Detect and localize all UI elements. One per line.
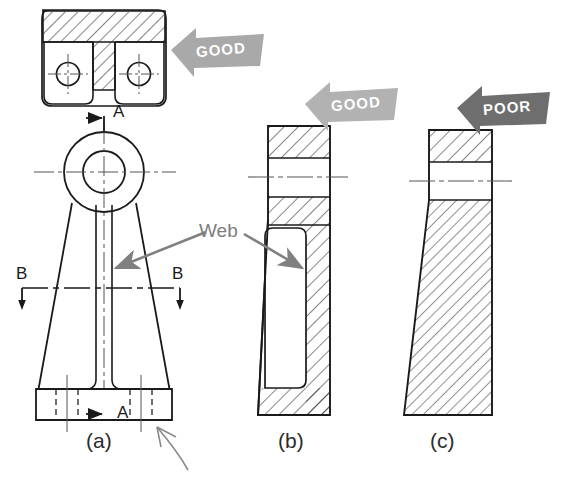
web-label: Web	[199, 221, 238, 240]
section-bb-view	[42, 10, 166, 106]
pencil-annotation-arrow	[157, 427, 188, 470]
drawing-canvas: Web A A B B GOOD GOOD POOR (a) (b) (c)	[0, 0, 572, 488]
figure-caption-c: (c)	[430, 430, 455, 451]
front-view-a	[18, 116, 184, 432]
figure-caption-a: (a)	[86, 430, 112, 451]
section-letter-a-top: A	[113, 103, 124, 120]
section-letter-a-bottom: A	[117, 404, 128, 421]
engineering-drawing-svg	[0, 0, 572, 488]
figure-caption-b: (b)	[278, 430, 304, 451]
side-view-c	[404, 130, 512, 415]
section-letter-b-right: B	[172, 265, 183, 282]
section-letter-b-left: B	[16, 265, 27, 282]
side-view-b	[248, 126, 348, 415]
